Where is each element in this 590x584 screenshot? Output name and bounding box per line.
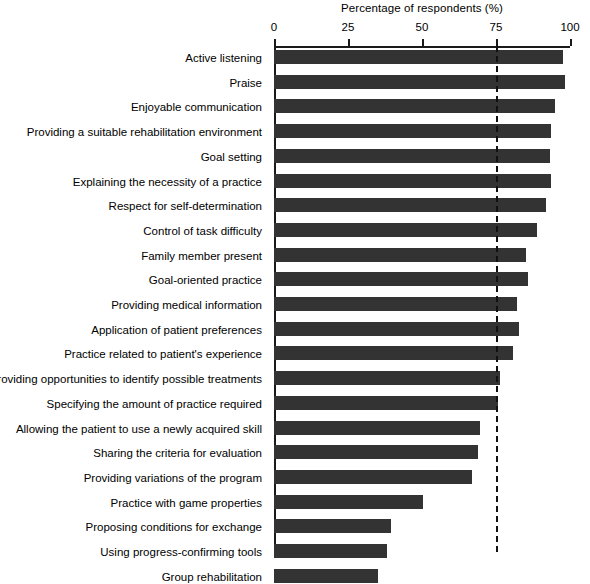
category-label: Goal setting — [201, 150, 262, 164]
bar-row — [274, 99, 570, 113]
x-tick-label-50: 50 — [416, 21, 429, 33]
category-label: Providing variations of the program — [84, 471, 262, 485]
plot-area: 0255075100 — [274, 46, 570, 552]
bar-row — [274, 75, 570, 89]
bar — [274, 470, 472, 484]
category-label: Control of task difficulty — [143, 224, 262, 238]
category-label: Sharing the criteria for evaluation — [93, 446, 262, 460]
bar-row — [274, 470, 570, 484]
bar-row — [274, 50, 570, 64]
bar-row — [274, 569, 570, 583]
category-label: Allowing the patient to use a newly acqu… — [16, 422, 262, 436]
bar-row — [274, 149, 570, 163]
category-label: Active listening — [185, 51, 262, 65]
x-axis-line — [274, 46, 570, 48]
category-label: Application of patient preferences — [91, 323, 262, 337]
bar-row — [274, 495, 570, 509]
category-label: Family member present — [141, 249, 262, 263]
bar — [274, 99, 555, 113]
bar — [274, 519, 391, 533]
bar — [274, 445, 478, 459]
category-label: Proposing conditions for exchange — [86, 520, 262, 534]
bar-row — [274, 124, 570, 138]
category-label: Providing opportunities to identify poss… — [0, 372, 262, 386]
bar-row — [274, 248, 570, 262]
x-tick-mark-0 — [274, 39, 276, 46]
category-label: Praise — [229, 76, 262, 90]
bottom-caption — [0, 549, 590, 558]
x-tick-mark-100 — [570, 39, 572, 46]
category-labels: Active listeningPraiseEnjoyable communic… — [0, 46, 268, 552]
category-label: Practice related to patient's experience — [64, 347, 262, 361]
bar — [274, 174, 551, 188]
category-label: Specifying the amount of practice requir… — [47, 397, 262, 411]
x-tick-label-100: 100 — [560, 21, 579, 33]
category-label: Providing a suitable rehabilitation envi… — [27, 125, 262, 139]
bar-row — [274, 519, 570, 533]
threshold-line-75 — [496, 46, 498, 552]
bar-row — [274, 198, 570, 212]
bar-row — [274, 223, 570, 237]
category-label: Respect for self-determination — [109, 199, 262, 213]
bar-row — [274, 421, 570, 435]
category-label: Providing medical information — [111, 298, 262, 312]
x-tick-mark-50 — [422, 39, 424, 46]
bar — [274, 75, 565, 89]
bar-row — [274, 346, 570, 360]
bar — [274, 396, 498, 410]
category-label: Explaining the necessity of a practice — [73, 175, 262, 189]
x-tick-label-0: 0 — [271, 21, 277, 33]
bar — [274, 149, 550, 163]
bar — [274, 297, 517, 311]
category-label: Enjoyable communication — [131, 100, 262, 114]
category-label: Goal-oriented practice — [149, 273, 262, 287]
x-tick-label-75: 75 — [490, 21, 503, 33]
bar-row — [274, 174, 570, 188]
bar — [274, 272, 528, 286]
bar — [274, 569, 378, 583]
bar-row — [274, 272, 570, 286]
bar-row — [274, 322, 570, 336]
category-label: Practice with game properties — [111, 496, 262, 510]
bar — [274, 371, 500, 385]
bar — [274, 421, 480, 435]
bar-row — [274, 396, 570, 410]
x-tick-label-25: 25 — [342, 21, 355, 33]
x-tick-mark-25 — [348, 39, 350, 46]
bar — [274, 322, 519, 336]
bar — [274, 50, 563, 64]
bar — [274, 124, 551, 138]
bar-row — [274, 371, 570, 385]
category-label: Group rehabilitation — [162, 570, 262, 584]
axis-title: Percentage of respondents (%) — [274, 2, 570, 14]
bar-row — [274, 297, 570, 311]
bar — [274, 248, 526, 262]
bar — [274, 495, 423, 509]
bar-row — [274, 445, 570, 459]
x-tick-mark-75 — [496, 39, 498, 46]
bar — [274, 198, 546, 212]
bar — [274, 346, 513, 360]
